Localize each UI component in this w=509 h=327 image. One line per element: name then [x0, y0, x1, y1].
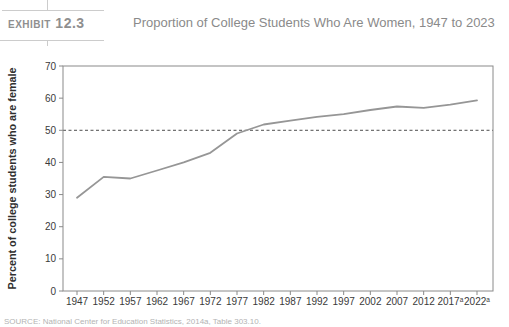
y-tick-label: 50 [45, 125, 57, 136]
y-tick-label: 10 [45, 253, 57, 264]
y-axis: 010203040506070 [45, 61, 63, 297]
x-tick-label: 1967 [173, 296, 196, 307]
y-tick-label: 30 [45, 189, 57, 200]
chart-svg: 010203040506070Percent of college studen… [0, 0, 509, 327]
x-tick-label: 1957 [119, 296, 142, 307]
x-tick-label: 1987 [279, 296, 302, 307]
x-tick-label: 1972 [199, 296, 222, 307]
x-tick-label: 2017a [437, 296, 463, 308]
page: Exhibit 12.3 Proportion of College Stude… [0, 0, 509, 327]
x-tick-label: 1997 [333, 296, 356, 307]
x-tick-label: 2012 [413, 296, 436, 307]
y-tick-label: 60 [45, 93, 57, 104]
y-tick-label: 40 [45, 157, 57, 168]
x-tick-label: 2002 [359, 296, 382, 307]
x-tick-label: 1952 [93, 296, 116, 307]
x-tick-label: 1962 [146, 296, 169, 307]
y-axis-title: Percent of college students who are fema… [7, 67, 18, 289]
x-tick-label: 1982 [253, 296, 276, 307]
data-line-percent-female [77, 100, 477, 197]
x-tick-label: 1947 [66, 296, 89, 307]
x-tick-label: 2007 [386, 296, 409, 307]
x-axis: 1947195219571962196719721977198219871992… [66, 291, 490, 307]
x-tick-label: 2022a [464, 296, 490, 308]
source-note: SOURCE: National Center for Education St… [4, 317, 261, 326]
x-tick-label: 1992 [306, 296, 329, 307]
y-tick-label: 70 [45, 61, 57, 72]
y-tick-label: 0 [50, 286, 56, 297]
y-tick-label: 20 [45, 221, 57, 232]
x-tick-label: 1977 [226, 296, 249, 307]
